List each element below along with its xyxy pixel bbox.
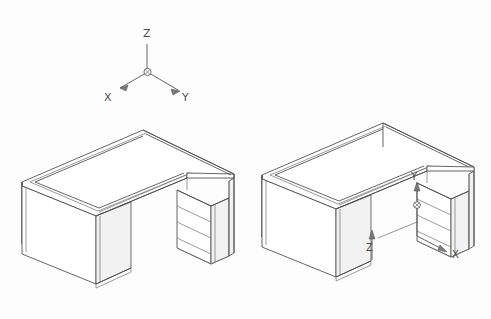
technical-drawing-svg: Z X Y [0, 0, 491, 319]
left-desk-front-panel-return [96, 202, 131, 284]
axis-x-line [120, 73, 146, 88]
left-desk-pedestal-right-column [229, 178, 234, 256]
right-desk-pedestal-side-panel [451, 191, 469, 257]
right-axis-label-y: Y [410, 171, 418, 182]
axis-label-z: Z [143, 27, 151, 40]
axis-label-x: X [104, 91, 112, 104]
right-desk-front-panel-return [336, 195, 371, 277]
axis-y-arrowhead [171, 89, 180, 95]
right-axis-label-x: X [452, 249, 459, 260]
left-desk-pedestal-front-face [177, 190, 211, 264]
right-axis-z-leader [378, 222, 417, 238]
right-desk-view: Y X Z [262, 123, 474, 281]
drawing-canvas: Z X Y [0, 0, 491, 319]
right-desk-return-top-face [427, 166, 474, 171]
left-desk-pedestal-side-panel [211, 198, 229, 264]
right-desk-pedestal-right-column [469, 171, 474, 249]
right-desk-pedestal-front-face [417, 183, 451, 257]
left-desk-view [22, 130, 234, 288]
left-desk-return-top-face [187, 173, 234, 178]
axis-triad-group: Z X Y [104, 27, 189, 104]
axis-y-line [149, 73, 178, 90]
axis-label-y: Y [181, 91, 189, 104]
right-axis-label-z: Z [366, 242, 373, 253]
